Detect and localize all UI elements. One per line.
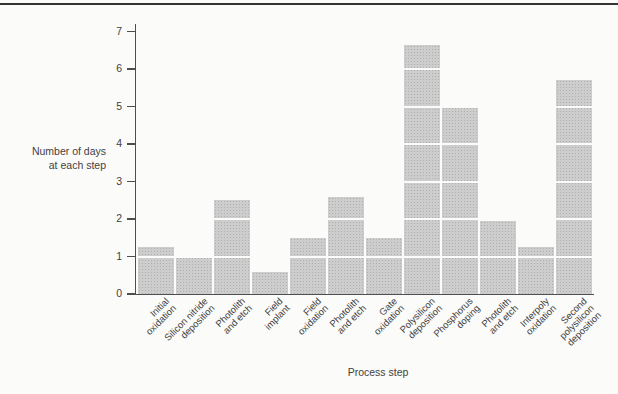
x-axis-title: Process step <box>328 366 428 378</box>
bar-phosphorus-doping <box>442 107 478 295</box>
y-tick-label-0: 0 <box>90 286 122 300</box>
unit-gridline-3 <box>137 181 594 183</box>
y-tick-label-2: 2 <box>90 211 122 225</box>
unit-gridline-4 <box>137 143 594 145</box>
x-category-label-second-polysilicon-deposition: Secondpolysilicondeposition <box>551 296 603 348</box>
y-tick-mark-1 <box>127 256 135 258</box>
y-tick-label-7: 7 <box>90 24 122 38</box>
y-tick-mark-5 <box>127 106 135 108</box>
y-tick-mark-7 <box>127 31 135 33</box>
y-tick-label-6: 6 <box>90 61 122 75</box>
bar-field-implant <box>252 272 288 295</box>
page-top-rule <box>0 3 618 5</box>
unit-gridline-2 <box>137 218 594 220</box>
y-tick-label-4: 4 <box>90 136 122 150</box>
x-category-label-gate-oxidation: Gateoxidation <box>365 296 406 337</box>
y-tick-mark-6 <box>127 68 135 70</box>
y-axis-title-line2: at each step <box>0 159 106 173</box>
y-tick-label-1: 1 <box>90 249 122 263</box>
unit-gridline-6 <box>137 68 594 70</box>
bar-silicon-nitride-deposition <box>176 257 212 295</box>
bar-gate-oxidation <box>366 238 402 294</box>
y-tick-mark-4 <box>127 143 135 145</box>
textbook-figure-page: Number of days at each step 01234567 Pro… <box>0 0 618 394</box>
bar-second-polysilicon-deposition <box>556 80 592 294</box>
x-category-label-interpoly-oxidation: Interpolyoxidation <box>517 296 558 337</box>
bar-field-oxidation <box>290 238 326 294</box>
y-tick-mark-0 <box>127 293 135 295</box>
x-category-label-field-implant: Fieldimplant <box>256 296 292 332</box>
y-tick-mark-3 <box>127 181 135 183</box>
y-tick-mark-2 <box>127 218 135 220</box>
bar-initial-oxidation <box>138 247 174 294</box>
x-category-label-field-oxidation: Fieldoxidation <box>289 296 330 337</box>
bar-photolith-and-etch <box>328 197 364 295</box>
unit-gridline-5 <box>137 106 594 108</box>
y-tick-label-3: 3 <box>90 174 122 188</box>
bar-photolith-and-etch <box>214 200 250 294</box>
plot-area: 01234567 <box>135 24 594 295</box>
bar-interpoly-oxidation <box>518 247 554 294</box>
x-category-label-photolith-and-etch: Photolithand etch <box>480 296 520 336</box>
unit-gridline-1 <box>137 256 594 258</box>
x-category-label-phosphorus-doping: Phosphorusdoping <box>432 296 482 346</box>
y-tick-label-5: 5 <box>90 99 122 113</box>
x-category-label-photolith-and-etch: Photolithand etch <box>328 296 368 336</box>
x-category-label-photolith-and-etch: Photolithand etch <box>214 296 254 336</box>
